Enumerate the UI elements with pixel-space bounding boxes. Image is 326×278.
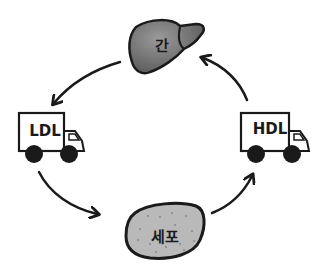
hdl-label: HDL: [247, 120, 293, 138]
liver-label: 간: [142, 34, 182, 55]
arrow-hdl-to-liver: [203, 58, 247, 100]
cell-label: 세포: [140, 225, 190, 246]
arrow-liver-to-ldl: [54, 62, 120, 103]
ldl-label: LDL: [22, 122, 68, 140]
arrow-ldl-to-cell: [39, 172, 97, 214]
arrow-cell-to-hdl: [212, 176, 252, 213]
